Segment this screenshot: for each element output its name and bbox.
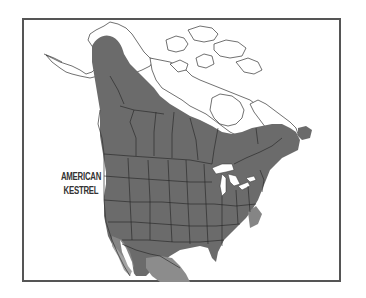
map-title-line2: KESTREL (54, 184, 109, 197)
map-title-line1: AMERICAN (54, 170, 109, 183)
range-winter (146, 256, 190, 282)
range-map (0, 0, 366, 298)
range-newfoundland (298, 126, 312, 140)
